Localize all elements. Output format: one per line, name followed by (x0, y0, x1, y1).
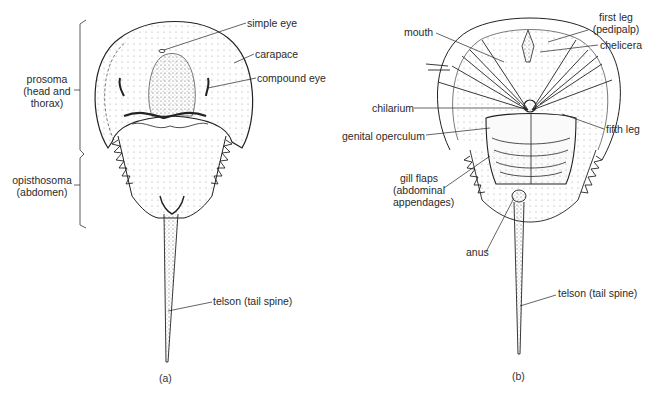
label-carapace: carapace (255, 48, 298, 60)
label-compound-eye: compound eye (257, 72, 326, 84)
anatomy-illustration (0, 0, 659, 408)
caption-a: (a) (159, 372, 172, 384)
label-telson-b: telson (tail spine) (558, 287, 637, 299)
horseshoe-crab-figure: simple eye carapace compound eye prosoma… (0, 0, 659, 408)
dorsal-view-drawing (95, 22, 253, 363)
label-telson-a: telson (tail spine) (213, 295, 292, 307)
label-first-leg: first leg (pedipalp) (588, 11, 644, 35)
label-opisthosoma: opisthosoma (abdomen) (10, 174, 74, 198)
region-brackets (80, 20, 86, 228)
label-prosoma: prosoma (head and thorax) (22, 73, 72, 109)
label-mouth: mouth (404, 26, 433, 38)
label-chilarium: chilarium (372, 102, 414, 114)
label-simple-eye: simple eye (247, 17, 297, 29)
caption-b: (b) (512, 370, 525, 382)
label-anus: anus (466, 246, 489, 258)
label-fifth-leg: fifth leg (606, 123, 640, 135)
ventral-view-drawing (426, 18, 620, 354)
label-gill-flaps: gill flaps (abdominal appendages) (393, 172, 445, 208)
label-genital-operculum: genital operculum (342, 130, 425, 142)
label-chelicera: chelicera (600, 39, 642, 51)
